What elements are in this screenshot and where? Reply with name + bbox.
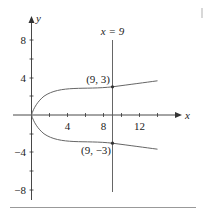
x-tick-label-12: 12 xyxy=(134,120,145,132)
y-tick-label-neg4: −4 xyxy=(14,146,26,158)
y-axis-label: y xyxy=(35,12,41,24)
y-tick-label-neg8: −8 xyxy=(14,184,26,196)
x-tick-label-8: 8 xyxy=(101,120,107,132)
point-9-3 xyxy=(111,85,114,88)
vertical-line-x9: x = 9 xyxy=(100,25,125,192)
x-axis: 4 8 12 x xyxy=(13,109,190,132)
x-axis-label: x xyxy=(184,109,190,121)
y-tick-label-8: 8 xyxy=(21,34,27,46)
point-label-lower: (9, −3) xyxy=(81,144,111,157)
corner-mark xyxy=(201,8,203,18)
point-9-neg3 xyxy=(111,142,114,145)
parabola-curve xyxy=(32,81,158,115)
y-axis: 8 4 −4 −8 y xyxy=(14,12,41,200)
x-tick-label-4: 4 xyxy=(65,120,71,132)
parabola-chart: 4 8 12 x 8 4 −4 −8 y x = 9 (9, 3) (9, −3… xyxy=(0,0,204,213)
vline-label: x = 9 xyxy=(100,25,125,37)
point-label-upper: (9, 3) xyxy=(86,73,110,86)
y-tick-label-4: 4 xyxy=(21,72,27,84)
x-axis-arrow-icon xyxy=(175,112,182,118)
y-axis-arrow-icon xyxy=(29,16,35,23)
